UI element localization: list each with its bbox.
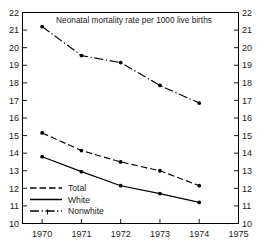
- y-tick-label-left: 12: [9, 184, 19, 194]
- data-point-white: [158, 192, 162, 196]
- y-tick-label-left: 10: [9, 219, 19, 229]
- y-tick-label-left: 11: [10, 201, 19, 211]
- y-tick-label-right: 15: [242, 131, 252, 141]
- y-tick-label-left: 14: [9, 148, 19, 158]
- y-tick-label-left: 22: [9, 8, 19, 18]
- y-tick-label-right: 10: [242, 219, 252, 229]
- y-tick-label-left: 15: [9, 131, 19, 141]
- y-tick-label-left: 13: [9, 166, 19, 176]
- legend-label-white: White: [68, 195, 90, 205]
- legend-label-nonwhite: Nonwhite: [68, 206, 104, 216]
- x-tick-label: 1974: [189, 229, 209, 239]
- y-tick-label-right: 16: [242, 113, 252, 123]
- y-tick-label-left: 17: [9, 96, 19, 106]
- x-tick-label: 1973: [150, 229, 170, 239]
- y-tick-label-right: 22: [242, 8, 252, 18]
- y-tick-label-left: 20: [9, 43, 19, 53]
- y-tick-label-right: 21: [242, 25, 252, 35]
- data-point-total: [158, 169, 162, 173]
- x-tick-label: 1972: [111, 229, 131, 239]
- y-tick-label-left: 18: [9, 78, 19, 88]
- data-point-white: [80, 170, 84, 174]
- chart-canvas: 10111213141516171819202122 1011121314151…: [0, 0, 265, 244]
- legend-label-total: Total: [68, 183, 86, 193]
- data-point-nonwhite: [197, 101, 201, 105]
- y-tick-label-right: 11: [242, 201, 251, 211]
- y-tick-label-right: 12: [242, 184, 252, 194]
- y-tick-label-right: 18: [242, 78, 252, 88]
- data-point-nonwhite: [40, 25, 44, 29]
- x-tick-label: 1970: [32, 229, 52, 239]
- data-point-white: [197, 201, 201, 205]
- y-tick-label-right: 13: [242, 166, 252, 176]
- data-point-white: [40, 155, 44, 159]
- data-point-nonwhite: [119, 61, 123, 65]
- data-point-total: [40, 131, 44, 135]
- data-point-nonwhite: [80, 54, 84, 58]
- x-tick-label: 1975: [228, 229, 248, 239]
- data-point-total: [80, 149, 84, 153]
- neonatal-mortality-chart: 10111213141516171819202122 1011121314151…: [0, 0, 265, 244]
- y-tick-label-left: 21: [9, 25, 19, 35]
- data-point-nonwhite: [158, 84, 162, 88]
- y-tick-label-right: 20: [242, 43, 252, 53]
- y-tick-label-right: 17: [242, 96, 252, 106]
- data-point-white: [119, 184, 123, 188]
- data-point-total: [197, 184, 201, 188]
- y-tick-label-right: 14: [242, 148, 252, 158]
- chart-background: [0, 0, 265, 244]
- y-tick-label-right: 19: [242, 60, 252, 70]
- chart-title: Neonatal mortality rate per 1000 live bi…: [56, 15, 212, 25]
- y-tick-label-left: 19: [9, 60, 19, 70]
- y-tick-label-left: 16: [9, 113, 19, 123]
- x-tick-label: 1971: [71, 229, 91, 239]
- data-point-total: [119, 160, 123, 164]
